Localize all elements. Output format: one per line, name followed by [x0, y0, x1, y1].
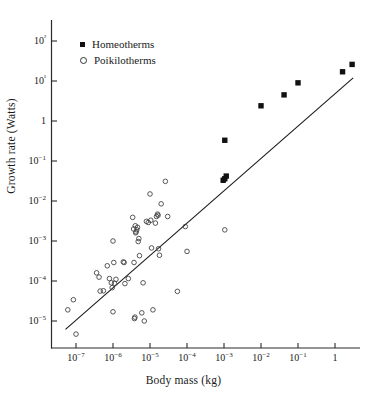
x-tick-label-4: 10−3 — [210, 352, 238, 363]
regression-line-path — [65, 78, 353, 329]
y-tick-label-0: 10−5 — [12, 315, 46, 326]
poikilotherm-point-38 — [148, 192, 153, 197]
scatter-plot-canvas — [0, 0, 367, 403]
poikilotherm-point-32 — [137, 253, 142, 258]
poikilotherm-point-11 — [111, 239, 116, 244]
poikilotherm-point-51 — [175, 289, 180, 294]
poikilotherm-point-41 — [151, 308, 156, 313]
poikilotherm-point-54 — [222, 228, 227, 233]
poikilotherm-point-3 — [94, 271, 99, 276]
legend-label-homeotherms: Homeotherms — [92, 36, 154, 52]
open-circle-icon — [80, 57, 87, 64]
poikilotherm-point-19 — [126, 276, 131, 281]
y-tick-label-7: 10² — [12, 35, 46, 46]
figure-container: Homeotherms Poikilotherms Growth rate (W… — [0, 0, 367, 403]
homeotherm-point-4 — [258, 103, 263, 108]
poikilotherm-point-34 — [141, 281, 146, 286]
poikilotherm-point-2 — [74, 332, 79, 337]
poikilotherm-point-42 — [153, 221, 158, 226]
x-axis-title: Body mass (kg) — [0, 374, 367, 386]
axis-lines — [51, 20, 360, 349]
poikilotherm-point-1 — [71, 297, 76, 302]
x-tick-label-7: 1 — [321, 352, 349, 363]
poikilotherm-point-35 — [142, 319, 147, 324]
x-tick-label-0: 10−7 — [62, 352, 90, 363]
poikilotherm-points — [65, 179, 227, 336]
x-tick-label-1: 10−6 — [99, 352, 127, 363]
homeotherm-point-2 — [224, 173, 229, 178]
poikilotherm-point-22 — [132, 260, 137, 265]
poikilotherm-point-12 — [111, 309, 116, 314]
poikilotherm-point-53 — [185, 249, 190, 254]
poikilotherm-point-0 — [65, 308, 70, 313]
homeotherm-point-6 — [295, 80, 300, 85]
homeotherm-point-7 — [340, 69, 345, 74]
poikilotherm-point-18 — [123, 281, 128, 286]
poikilotherm-point-20 — [130, 215, 135, 220]
x-tick-label-6: 10−1 — [284, 352, 312, 363]
poikilotherm-point-47 — [157, 253, 162, 258]
homeotherm-points — [220, 62, 354, 183]
poikilotherm-point-4 — [97, 275, 102, 280]
y-tick-label-4: 10−1 — [12, 155, 46, 166]
filled-square-icon — [80, 42, 85, 47]
homeotherm-point-8 — [349, 62, 354, 67]
y-tick-label-5: 1 — [12, 115, 46, 126]
y-tick-label-2: 10−3 — [12, 235, 46, 246]
poikilotherm-point-49 — [163, 179, 168, 184]
poikilotherm-point-48 — [159, 202, 164, 207]
y-tick-label-6: 10¹ — [12, 75, 46, 86]
chart-legend: Homeotherms Poikilotherms — [80, 36, 156, 68]
legend-label-poikilotherms: Poikilotherms — [94, 52, 156, 68]
poikilotherm-point-7 — [105, 263, 110, 268]
regression-line — [65, 78, 353, 329]
x-tick-label-3: 10−4 — [173, 352, 201, 363]
legend-item-homeotherms: Homeotherms — [80, 36, 156, 52]
poikilotherm-point-33 — [139, 311, 144, 316]
homeotherm-point-3 — [222, 138, 227, 143]
x-tick-label-5: 10−2 — [247, 352, 275, 363]
y-axis-ticks — [52, 41, 58, 321]
y-tick-label-3: 10−2 — [12, 195, 46, 206]
poikilotherm-point-6 — [101, 288, 106, 293]
poikilotherm-point-40 — [149, 246, 154, 251]
poikilotherm-point-13 — [111, 260, 116, 265]
poikilotherm-point-50 — [165, 214, 170, 219]
homeotherm-point-5 — [281, 92, 286, 97]
x-tick-label-2: 10−5 — [136, 352, 164, 363]
poikilotherm-point-31 — [137, 236, 142, 241]
y-tick-label-1: 10−4 — [12, 275, 46, 286]
x-axis-ticks — [76, 343, 335, 348]
legend-item-poikilotherms: Poikilotherms — [80, 52, 156, 68]
